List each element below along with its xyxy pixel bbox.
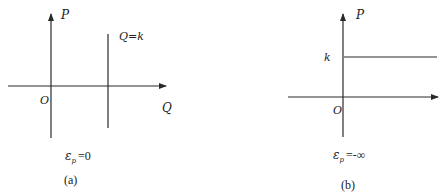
elasticity-label: εp=-∞ bbox=[333, 148, 365, 164]
elasticity-value: =0 bbox=[78, 149, 91, 163]
origin-label: O bbox=[40, 94, 49, 107]
origin-label: O bbox=[333, 104, 342, 117]
elasticity-subscript: p bbox=[339, 156, 344, 164]
caption-b: (b) bbox=[341, 178, 355, 192]
y-axis-label: P bbox=[60, 8, 70, 22]
panel-b: P k O εp=-∞ (b) bbox=[288, 8, 438, 192]
x-axis-label: Q bbox=[162, 101, 172, 115]
elasticity-value: =-∞ bbox=[346, 148, 365, 162]
panel-a: P Q=k O Q εp=0 (a) bbox=[8, 8, 172, 187]
y-axis-label: P bbox=[355, 8, 365, 22]
line-label: Q=k bbox=[119, 30, 144, 43]
caption-a: (a) bbox=[64, 173, 77, 187]
elasticity-diagrams: P Q=k O Q εp=0 (a) P k O εp=-∞ (b) bbox=[0, 0, 446, 196]
elasticity-subscript: p bbox=[71, 157, 76, 165]
k-level-label: k bbox=[324, 51, 331, 64]
elasticity-label: εp=0 bbox=[65, 149, 91, 165]
